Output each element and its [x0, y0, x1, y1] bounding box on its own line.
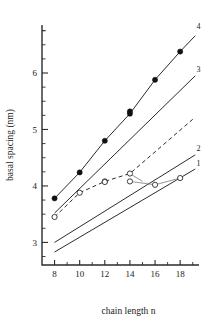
- data-point-open: [102, 179, 107, 184]
- chart-figure: 3456810121416181234chain length nbasal s…: [0, 0, 203, 317]
- y-tick-label: 6: [33, 68, 38, 78]
- x-tick-label: 8: [52, 269, 57, 279]
- data-point-filled: [52, 196, 57, 201]
- data-point-open: [127, 171, 132, 176]
- y-tick-label: 4: [33, 181, 38, 191]
- y-tick-label: 5: [33, 125, 38, 135]
- x-tick-label: 16: [151, 269, 161, 279]
- data-point-open: [52, 214, 57, 219]
- x-tick-label: 14: [125, 269, 135, 279]
- data-point-filled: [102, 138, 107, 143]
- data-point-filled: [178, 49, 183, 54]
- basal-spacing-vs-chain-length-plot: 3456810121416181234chain length nbasal s…: [0, 0, 203, 317]
- data-point-open: [127, 179, 132, 184]
- curve-1: [55, 169, 196, 252]
- x-tick-label: 10: [75, 269, 85, 279]
- x-axis-title: chain length n: [102, 306, 156, 316]
- curve-label-1: 1: [196, 159, 200, 168]
- curve-label-4: 4: [196, 22, 200, 31]
- curve-3: [55, 76, 196, 213]
- curve-dashed-experimental: [55, 119, 193, 217]
- data-point-open: [152, 182, 157, 187]
- curve-4: [55, 36, 196, 199]
- data-point-open: [178, 175, 183, 180]
- data-point-open: [77, 190, 82, 195]
- axis-lines: [42, 25, 199, 265]
- data-point-filled: [127, 109, 132, 114]
- y-tick-label: 3: [33, 238, 38, 248]
- curve-label-2: 2: [196, 144, 200, 153]
- y-axis-title: basal spacing (nm): [5, 109, 16, 181]
- data-point-filled: [152, 77, 157, 82]
- data-connector: [155, 178, 180, 185]
- x-tick-label: 18: [176, 269, 186, 279]
- curve-label-3: 3: [196, 65, 200, 74]
- x-tick-label: 12: [100, 269, 109, 279]
- data-point-filled: [77, 170, 82, 175]
- curve-2: [55, 155, 196, 243]
